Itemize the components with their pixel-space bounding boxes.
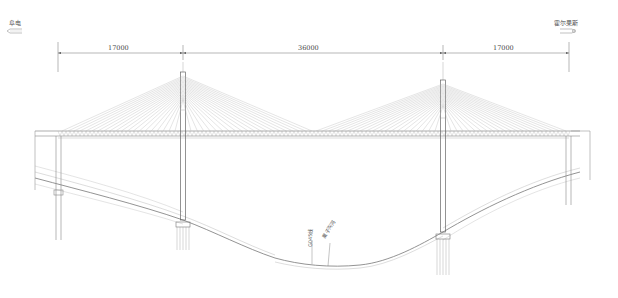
ground-profile <box>35 166 580 269</box>
stay-cables <box>62 76 566 131</box>
span-dimension-left: 17000 <box>108 44 129 52</box>
road-annotation: G045线 <box>306 229 313 247</box>
left-direction-arrow-icon <box>7 29 22 33</box>
span-dimension-right: 17000 <box>493 44 514 52</box>
bridge-deck <box>35 131 580 138</box>
right-direction-arrow-icon <box>560 29 576 33</box>
right-end-pier <box>566 131 590 205</box>
span-dimension-main: 36000 <box>298 44 319 52</box>
direction-label-left: 阜电 <box>9 18 21 27</box>
right-tower <box>436 62 450 275</box>
left-end-pier <box>35 131 63 240</box>
direction-label-right: 霍尔果斯 <box>554 18 578 27</box>
